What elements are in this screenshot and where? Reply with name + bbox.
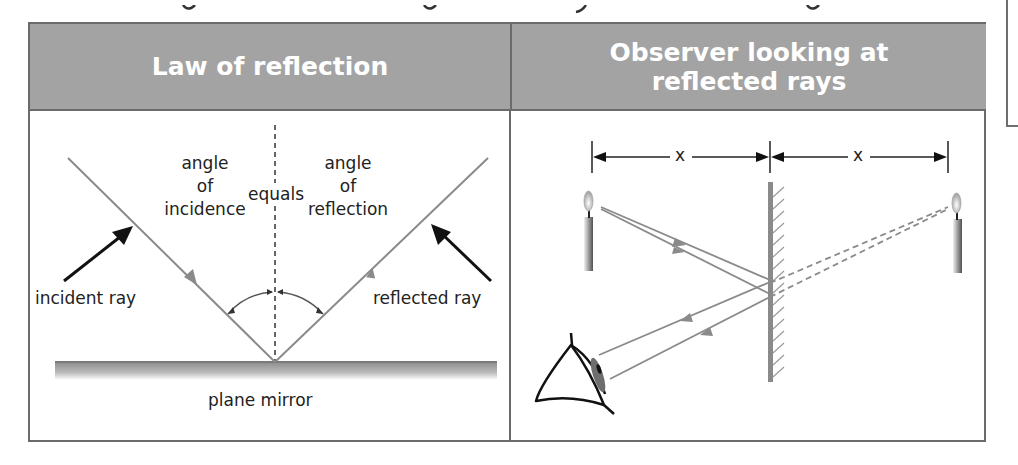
incident-ray-pointer	[64, 233, 125, 281]
ray-arrowhead-icon	[680, 313, 693, 322]
distance-x-right-label: x	[853, 144, 863, 167]
virtual-ray	[770, 209, 948, 297]
observer-diagram	[536, 141, 962, 414]
light-ray	[601, 209, 770, 294]
dim-arrow-right-icon	[934, 152, 947, 162]
equals-label: equals	[247, 183, 305, 206]
angle-arc-left	[228, 292, 272, 314]
incident-ray-arrowhead-icon	[184, 269, 197, 285]
dim-arrow-icon	[756, 152, 769, 162]
plane-mirror-icon	[55, 362, 497, 380]
incident-ray-label: incident ray	[35, 287, 136, 310]
candle-icon	[584, 191, 593, 271]
reflected-ray-pointer	[440, 232, 491, 281]
distance-x-left-label: x	[675, 144, 685, 167]
angle-of-reflection-label: angle of reflection	[298, 152, 398, 221]
angle-of-incidence-label: angle of incidence	[155, 152, 255, 221]
reflected-light-ray	[610, 297, 770, 379]
plane-mirror-label: plane mirror	[208, 389, 313, 412]
eye-icon	[536, 333, 614, 414]
light-ray	[601, 207, 770, 280]
virtual-candle-image-icon	[952, 193, 962, 273]
reflected-ray-label: reflected ray	[373, 287, 481, 310]
law-of-reflection-diagram	[55, 125, 497, 380]
reflected-pointer-arrowhead-icon	[431, 224, 451, 245]
angle-arc-right	[278, 292, 323, 314]
virtual-ray	[770, 207, 948, 283]
dim-arrow-left-icon	[593, 152, 606, 162]
dim-arrow-icon	[771, 152, 784, 162]
